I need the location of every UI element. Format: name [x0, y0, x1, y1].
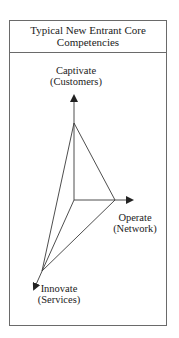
operate-label: Operate (Network) — [108, 212, 162, 234]
innovate-axis — [34, 200, 74, 289]
triangle-edge-top-right — [74, 123, 115, 200]
triangle-edge-top-left — [42, 123, 74, 271]
competency-diagram — [0, 0, 179, 338]
triangle-edge-right-left — [42, 200, 115, 271]
captivate-label: Captivate (Customers) — [49, 65, 103, 87]
innovate-sub: (Services) — [34, 294, 84, 305]
innovate-name: Innovate — [34, 283, 84, 294]
captivate-sub: (Customers) — [49, 76, 103, 87]
operate-sub: (Network) — [108, 223, 162, 234]
innovate-label: Innovate (Services) — [34, 283, 84, 305]
captivate-name: Captivate — [49, 65, 103, 76]
operate-name: Operate — [108, 212, 162, 223]
